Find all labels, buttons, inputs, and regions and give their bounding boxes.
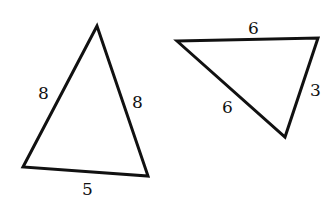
triangle-2 <box>177 38 318 137</box>
triangle-2-right-side-label: 3 <box>310 80 321 100</box>
triangle-1-left-side-label: 8 <box>38 83 49 103</box>
triangle-1-bottom-side-label: 5 <box>82 179 93 199</box>
triangle-2-left-side-label: 6 <box>222 97 233 117</box>
triangle-1-right-side-label: 8 <box>132 92 143 112</box>
triangles-diagram: 8 8 5 6 3 6 <box>0 0 331 215</box>
triangle-2-top-side-label: 6 <box>248 18 259 38</box>
